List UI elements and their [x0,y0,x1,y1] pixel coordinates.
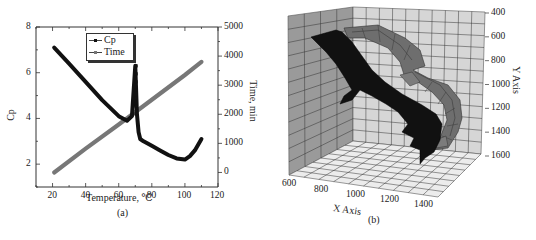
y-tick-label: 600 [491,32,505,42]
y2-tick-label: 4000 [224,51,243,61]
y2-tick-label: 0 [224,167,229,177]
chart-a-caption: (a) [117,208,128,218]
y-tick-label: 6 [26,68,31,78]
y-tick-label: 800 [491,56,505,66]
chart-b-3d-surface: X Axis Y Axis (b) 4006008001000120014001… [270,0,536,240]
x-tick-label: 600 [282,179,296,189]
y2-tick-label: 3000 [224,80,243,90]
chart-b-caption: (b) [368,215,380,225]
y-tick-label: 4 [26,113,31,123]
x-tick-label: 120 [210,191,224,201]
x-tick-label: 60 [114,191,124,201]
legend-swatch-time-icon [89,52,102,53]
legend-label-time: Time [104,46,125,57]
y-tick-label: 1600 [491,151,510,161]
chart-a-y2-axis-label: Time, min [248,80,258,121]
y-tick-label: 400 [491,8,505,18]
y-tick-label: 2 [26,159,31,169]
x-tick-label: 80 [147,191,157,201]
x-tick-label: 1000 [346,190,365,200]
y-tick-label: 1200 [491,103,510,113]
chart-a-plot [0,0,270,240]
y-tick-label: 1000 [491,80,510,90]
legend-label-cp: Cp [104,34,116,45]
legend-item-cp: Cp [87,34,133,46]
y2-tick-label: 5000 [224,22,243,32]
x-tick-label: 100 [177,191,191,201]
y-tick-label: 8 [26,22,31,32]
chart-b-y-axis-label: Y Axis [511,66,521,94]
y2-tick-label: 1000 [224,138,243,148]
chart-a-cp-time: Cp Time Temperature, ℃ Cp Time, min (a) … [0,0,270,240]
legend-item-time: Time [87,46,133,58]
x-tick-label: 20 [48,191,58,201]
y2-tick-label: 2000 [224,109,243,119]
y-tick-label: 1400 [491,127,510,137]
chart-a-legend: Cp Time [86,33,134,61]
x-tick-label: 1200 [380,195,399,205]
chart-a-y-axis-label: Cp [6,109,16,121]
x-tick-label: 40 [81,191,91,201]
x-tick-label: 800 [314,185,328,195]
x-tick-label: 1400 [414,200,433,210]
legend-swatch-cp-icon [89,40,102,41]
